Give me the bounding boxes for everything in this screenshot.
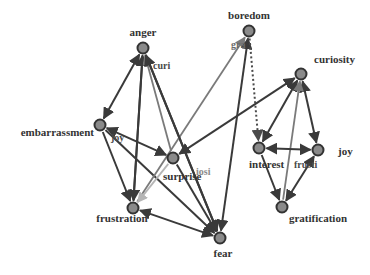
node-circle-icon bbox=[296, 69, 307, 80]
node-label: boredom bbox=[228, 9, 270, 21]
node-circle-icon bbox=[215, 233, 226, 244]
node-embarrassment: embarrassment bbox=[21, 120, 106, 139]
edge-label: curi bbox=[153, 60, 170, 71]
node-curiosity: curiosity bbox=[296, 53, 356, 80]
node-label: anger bbox=[130, 26, 157, 38]
edge-interest-to-joy bbox=[267, 148, 311, 149]
node-joy: joy bbox=[313, 145, 354, 158]
emotion-transition-graph: curigrajoyiosifrusti angerboredomcuriosi… bbox=[0, 0, 370, 275]
nodes-layer: angerboredomcuriosityembarrassmentsurpri… bbox=[21, 9, 356, 259]
node-boredom: boredom bbox=[228, 9, 270, 37]
edge-fear-to-frustration bbox=[140, 210, 213, 235]
node-label: embarrassment bbox=[21, 126, 95, 138]
edge-anger-to-frustration bbox=[134, 56, 143, 201]
node-label: fear bbox=[214, 247, 233, 259]
edge-label: gra bbox=[231, 39, 245, 50]
node-circle-icon bbox=[244, 26, 255, 37]
node-interest: interest bbox=[249, 143, 285, 171]
node-gratification: gratification bbox=[277, 202, 348, 225]
node-circle-icon bbox=[168, 153, 179, 164]
node-label: joy bbox=[337, 145, 353, 157]
edge-label: frusti bbox=[294, 159, 318, 170]
edge-labels-layer: curigrajoyiosifrusti bbox=[110, 39, 318, 177]
edge-anger-to-embarrassment bbox=[104, 55, 140, 119]
node-fear: fear bbox=[214, 233, 233, 260]
node-label: curiosity bbox=[314, 53, 355, 65]
node-circle-icon bbox=[138, 43, 149, 54]
edge-label: joy bbox=[110, 132, 124, 143]
edge-curiosity-to-joy bbox=[303, 81, 317, 142]
node-circle-icon bbox=[95, 120, 106, 131]
node-anger: anger bbox=[130, 26, 157, 54]
node-circle-icon bbox=[254, 143, 265, 154]
node-circle-icon bbox=[313, 145, 324, 156]
node-label: surprise bbox=[163, 170, 202, 182]
node-circle-icon bbox=[277, 202, 288, 213]
node-frustration: frustration bbox=[96, 203, 147, 225]
node-label: gratification bbox=[289, 212, 347, 224]
node-label: frustration bbox=[96, 212, 147, 224]
edge-boredom-to-interest bbox=[250, 39, 259, 141]
edge-anger-to-fear bbox=[146, 55, 217, 231]
node-label: interest bbox=[249, 158, 285, 170]
